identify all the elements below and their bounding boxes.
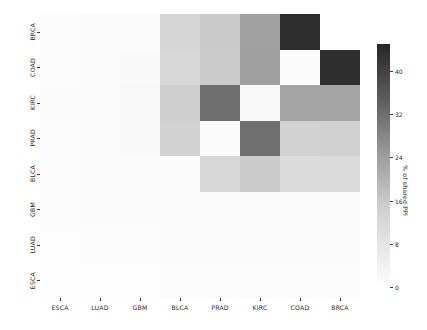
heatmap-cell bbox=[120, 227, 160, 263]
colorbar-tick-label: 0 bbox=[395, 284, 399, 291]
heatmap-cell bbox=[320, 263, 360, 299]
heatmap-grid bbox=[40, 14, 360, 298]
heatmap-cell bbox=[160, 121, 200, 157]
heatmap-cell bbox=[40, 85, 80, 121]
axis-label-text: GBM bbox=[133, 304, 148, 311]
heatmap-cell bbox=[80, 85, 120, 121]
x-tick-label-gbm: GBM bbox=[120, 298, 160, 311]
colorbar-axis-label: % of shared PPI bbox=[402, 165, 409, 216]
y-tick-mark bbox=[37, 280, 40, 281]
heatmap-cell bbox=[80, 227, 120, 263]
y-tick-mark bbox=[37, 174, 40, 175]
heatmap-cell bbox=[120, 121, 160, 157]
y-tick-mark bbox=[37, 245, 40, 246]
heatmap-cell bbox=[240, 263, 280, 299]
heatmap-cell bbox=[280, 227, 320, 263]
heatmap-cell bbox=[240, 85, 280, 121]
heatmap-cell bbox=[280, 85, 320, 121]
heatmap-cell bbox=[40, 192, 80, 228]
heatmap-cell bbox=[120, 192, 160, 228]
heatmap-cell bbox=[80, 50, 120, 86]
heatmap-cell bbox=[40, 14, 80, 50]
y-tick-mark bbox=[37, 32, 40, 33]
axis-label-text: COAD bbox=[29, 58, 36, 77]
axis-label-text: BRCA bbox=[331, 304, 349, 311]
axis-label-text: KIRC bbox=[29, 95, 36, 110]
colorbar-tick-label: 24 bbox=[395, 154, 403, 161]
axis-label-text: ESCA bbox=[29, 272, 36, 289]
axis-label-text: PRAD bbox=[211, 304, 229, 311]
x-tick-label-luad: LUAD bbox=[80, 298, 120, 311]
heatmap-cell bbox=[160, 263, 200, 299]
heatmap-cell bbox=[200, 14, 240, 50]
colorbar-gradient bbox=[377, 44, 390, 287]
heatmap-cell bbox=[40, 50, 80, 86]
heatmap-cell bbox=[120, 14, 160, 50]
y-tick-mark bbox=[37, 103, 40, 104]
heatmap-cell bbox=[80, 263, 120, 299]
heatmap-cell bbox=[200, 50, 240, 86]
heatmap-cell bbox=[200, 263, 240, 299]
heatmap-cell bbox=[320, 156, 360, 192]
heatmap-cell bbox=[240, 227, 280, 263]
heatmap-cell bbox=[120, 263, 160, 299]
heatmap-cell bbox=[160, 156, 200, 192]
colorbar-tick-mark bbox=[390, 201, 393, 202]
heatmap-cell bbox=[80, 192, 120, 228]
heatmap-cell bbox=[280, 50, 320, 86]
colorbar-tick-label: 8 bbox=[395, 240, 399, 247]
heatmap-cell bbox=[320, 121, 360, 157]
y-tick-mark bbox=[37, 67, 40, 68]
axis-label-text: ESCA bbox=[51, 304, 68, 311]
colorbar-tick-mark bbox=[390, 71, 393, 72]
heatmap-cell bbox=[40, 263, 80, 299]
heatmap-cell bbox=[40, 156, 80, 192]
heatmap-cell bbox=[40, 121, 80, 157]
axis-label-text: LUAD bbox=[29, 236, 36, 253]
heatmap-cell bbox=[320, 14, 360, 50]
axis-label-text: GBM bbox=[29, 202, 36, 217]
x-tick-label-brca: BRCA bbox=[320, 298, 360, 311]
heatmap-cell bbox=[200, 156, 240, 192]
x-tick-label-kirc: KIRC bbox=[240, 298, 280, 311]
heatmap-cell bbox=[320, 192, 360, 228]
heatmap-cell bbox=[200, 227, 240, 263]
heatmap-cell bbox=[200, 85, 240, 121]
heatmap-cell bbox=[80, 156, 120, 192]
heatmap-cell bbox=[160, 14, 200, 50]
colorbar: 0816243240 bbox=[377, 44, 390, 287]
heatmap-cell bbox=[320, 50, 360, 86]
x-tick-label-coad: COAD bbox=[280, 298, 320, 311]
axis-label-text: PRAD bbox=[29, 129, 36, 147]
colorbar-tick-mark bbox=[390, 244, 393, 245]
heatmap-cell bbox=[120, 156, 160, 192]
x-tick-label-esca: ESCA bbox=[40, 298, 80, 311]
heatmap-cell bbox=[160, 50, 200, 86]
x-tick-label-prad: PRAD bbox=[200, 298, 240, 311]
heatmap-cell bbox=[280, 156, 320, 192]
heatmap-cell bbox=[200, 192, 240, 228]
heatmap-cell bbox=[80, 121, 120, 157]
heatmap-cell bbox=[280, 121, 320, 157]
heatmap-cell bbox=[240, 121, 280, 157]
axis-label-text: BLCA bbox=[171, 304, 188, 311]
colorbar-tick-mark bbox=[390, 114, 393, 115]
y-tick-mark bbox=[37, 138, 40, 139]
heatmap-cell bbox=[280, 263, 320, 299]
heatmap-cell bbox=[320, 227, 360, 263]
axis-label-text: COAD bbox=[291, 304, 310, 311]
heatmap-cell bbox=[160, 192, 200, 228]
heatmap-cell bbox=[240, 14, 280, 50]
heatmap-cell bbox=[240, 156, 280, 192]
heatmap-cell bbox=[240, 50, 280, 86]
heatmap-cell bbox=[280, 192, 320, 228]
axis-label-text: BLCA bbox=[29, 165, 36, 182]
colorbar-tick-mark bbox=[390, 157, 393, 158]
x-tick-label-blca: BLCA bbox=[160, 298, 200, 311]
heatmap-cell bbox=[280, 14, 320, 50]
heatmap-cell bbox=[80, 14, 120, 50]
colorbar-tick-label: 32 bbox=[395, 111, 403, 118]
axis-label-text: LUAD bbox=[91, 304, 108, 311]
heatmap-cell bbox=[160, 85, 200, 121]
heatmap-cell bbox=[120, 85, 160, 121]
